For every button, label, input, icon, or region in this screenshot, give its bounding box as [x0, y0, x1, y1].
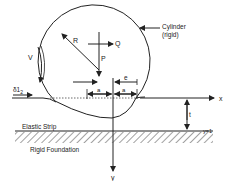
x-axis-label: x	[219, 95, 223, 102]
y-axis-label: y	[111, 174, 115, 181]
strip-surface-left	[12, 98, 56, 102]
elastic-strip-label: Elastic Strip	[22, 123, 57, 131]
strain-label: δ12	[13, 86, 23, 95]
rigid-foundation-hatch	[15, 132, 213, 143]
eccentricity-label: e	[124, 74, 128, 81]
thickness-label: t	[189, 111, 191, 118]
contact-mechanics-diagram: x y R P Q Cylinder (rigid) V δ12 e a a t…	[0, 0, 238, 181]
cylinder-note: (rigid)	[162, 31, 179, 39]
contact-half-width-left-label: a	[97, 87, 101, 93]
horizontal-force-label: Q	[115, 40, 121, 48]
radius-arrow	[62, 34, 99, 70]
cylinder-label: Cylinder	[162, 23, 187, 31]
contact-half-width-right-label: a	[122, 87, 126, 93]
boundary-label: y=1	[203, 128, 212, 134]
rigid-foundation-label: Rigid Foundation	[30, 146, 80, 154]
radius-label: R	[73, 37, 78, 44]
velocity-label: V	[28, 54, 33, 61]
vertical-force-label: P	[101, 55, 106, 62]
